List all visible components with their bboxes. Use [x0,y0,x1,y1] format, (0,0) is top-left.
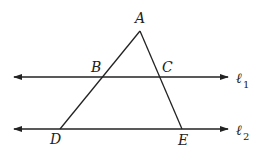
point-label-a: A [133,10,145,26]
segment-ae [140,31,182,129]
line-label-l1-main: ℓ [236,70,242,86]
line-label-l1: ℓ 1 [236,70,249,90]
line-label-l1-subscript: 1 [243,79,249,90]
geometry-diagram: A B C D E ℓ 1 ℓ 2 [0,0,265,150]
segment-ad [60,31,140,129]
point-label-c: C [162,59,173,75]
point-label-d: D [49,131,61,147]
line-label-l2-subscript: 2 [243,131,249,142]
line-label-l2: ℓ 2 [236,122,249,142]
line-label-l2-main: ℓ [236,122,242,138]
point-label-e: E [177,132,188,148]
point-label-b: B [90,59,101,75]
